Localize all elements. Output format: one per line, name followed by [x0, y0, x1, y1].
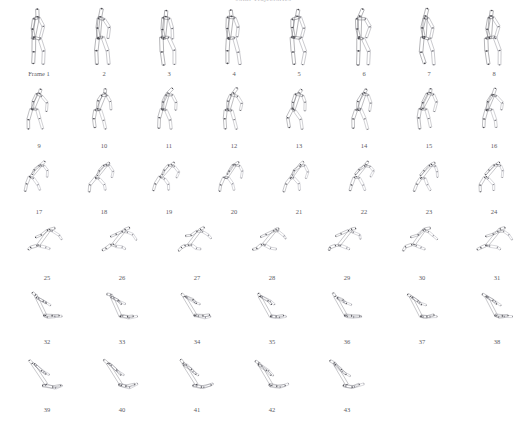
- frame-2[interactable]: 2: [71, 2, 137, 82]
- frame-38[interactable]: 38: [464, 288, 527, 346]
- skeleton-figure-30: [389, 224, 455, 274]
- frame-label-15: 15: [396, 142, 462, 149]
- frame-13[interactable]: 13: [266, 84, 332, 150]
- skeleton-figure-28: [239, 224, 305, 274]
- frame-label-40: 40: [89, 406, 155, 413]
- skeleton-figure-40: [89, 356, 155, 406]
- frame-label-9: 9: [6, 142, 72, 149]
- frame-label-20: 20: [201, 208, 267, 215]
- frame-29[interactable]: 29: [314, 224, 380, 280]
- frame-1[interactable]: Frame 1: [6, 2, 72, 82]
- frame-19[interactable]: 19: [136, 158, 202, 216]
- frame-label-37: 37: [389, 338, 455, 345]
- skeleton-figure-39: [14, 356, 80, 406]
- skeleton-figure-24: [461, 158, 527, 208]
- frame-24[interactable]: 24: [461, 158, 527, 216]
- frame-20[interactable]: 20: [201, 158, 267, 216]
- frame-25[interactable]: 25: [14, 224, 80, 280]
- skeleton-figure-29: [314, 224, 380, 274]
- frame-label-27: 27: [164, 274, 230, 281]
- frame-41[interactable]: 41: [164, 356, 230, 416]
- skeleton-figure-42: [239, 356, 305, 406]
- frame-23[interactable]: 23: [396, 158, 462, 216]
- frame-row-1: 910111213141516: [0, 84, 527, 150]
- skeleton-figure-22: [331, 158, 397, 208]
- skeleton-figure-31: [464, 224, 527, 274]
- skeleton-figure-25: [14, 224, 80, 274]
- skeleton-figure-1: [6, 2, 72, 70]
- skeleton-figure-8: [461, 2, 527, 70]
- frame-label-4: 4: [201, 70, 267, 77]
- frame-8[interactable]: 8: [461, 2, 527, 82]
- frame-42[interactable]: 42: [239, 356, 305, 416]
- frame-label-41: 41: [164, 406, 230, 413]
- frame-4[interactable]: 4: [201, 2, 267, 82]
- skeleton-figure-33: [89, 288, 155, 338]
- frame-6[interactable]: 6: [331, 2, 397, 82]
- frame-label-42: 42: [239, 406, 305, 413]
- frame-label-14: 14: [331, 142, 397, 149]
- frame-17[interactable]: 17: [6, 158, 72, 216]
- frame-34[interactable]: 34: [164, 288, 230, 346]
- frame-21[interactable]: 21: [266, 158, 332, 216]
- frame-31[interactable]: 31: [464, 224, 527, 280]
- frame-label-6: 6: [331, 70, 397, 77]
- frame-label-28: 28: [239, 274, 305, 281]
- frame-row-4: 32333435363738: [0, 288, 527, 346]
- skeleton-figure-10: [71, 84, 137, 142]
- frame-label-36: 36: [314, 338, 380, 345]
- frame-3[interactable]: 3: [136, 2, 202, 82]
- skeleton-figure-7: [396, 2, 462, 70]
- frame-label-18: 18: [71, 208, 137, 215]
- frame-15[interactable]: 15: [396, 84, 462, 150]
- frame-12[interactable]: 12: [201, 84, 267, 150]
- frame-30[interactable]: 30: [389, 224, 455, 280]
- frame-7[interactable]: 7: [396, 2, 462, 82]
- frame-label-25: 25: [14, 274, 80, 281]
- frame-label-10: 10: [71, 142, 137, 149]
- skeleton-figure-19: [136, 158, 202, 208]
- skeleton-figure-23: [396, 158, 462, 208]
- skeleton-figure-13: [266, 84, 332, 142]
- frame-32[interactable]: 32: [14, 288, 80, 346]
- frame-16[interactable]: 16: [461, 84, 527, 150]
- skeleton-figure-38: [464, 288, 527, 338]
- frame-label-8: 8: [461, 70, 527, 77]
- frame-label-22: 22: [331, 208, 397, 215]
- frame-label-34: 34: [164, 338, 230, 345]
- frame-label-17: 17: [6, 208, 72, 215]
- frame-35[interactable]: 35: [239, 288, 305, 346]
- frame-label-5: 5: [266, 70, 332, 77]
- frame-label-3: 3: [136, 70, 202, 77]
- frame-label-33: 33: [89, 338, 155, 345]
- skeleton-figure-21: [266, 158, 332, 208]
- frame-label-30: 30: [389, 274, 455, 281]
- frame-5[interactable]: 5: [266, 2, 332, 82]
- frame-27[interactable]: 27: [164, 224, 230, 280]
- frame-18[interactable]: 18: [71, 158, 137, 216]
- frame-28[interactable]: 28: [239, 224, 305, 280]
- frame-26[interactable]: 26: [89, 224, 155, 280]
- frame-10[interactable]: 10: [71, 84, 137, 150]
- skeleton-figure-20: [201, 158, 267, 208]
- frame-33[interactable]: 33: [89, 288, 155, 346]
- frame-43[interactable]: 43: [314, 356, 380, 416]
- frame-label-24: 24: [461, 208, 527, 215]
- skeleton-figure-15: [396, 84, 462, 142]
- frame-row-5: 3940414243: [0, 356, 527, 416]
- frame-22[interactable]: 22: [331, 158, 397, 216]
- frame-9[interactable]: 9: [6, 84, 72, 150]
- frame-label-39: 39: [14, 406, 80, 413]
- frame-11[interactable]: 11: [136, 84, 202, 150]
- frame-40[interactable]: 40: [89, 356, 155, 416]
- frame-39[interactable]: 39: [14, 356, 80, 416]
- frame-label-1: Frame 1: [6, 70, 72, 77]
- frame-label-7: 7: [396, 70, 462, 77]
- frame-14[interactable]: 14: [331, 84, 397, 150]
- frame-37[interactable]: 37: [389, 288, 455, 346]
- skeleton-figure-12: [201, 84, 267, 142]
- skeleton-figure-3: [136, 2, 202, 70]
- frame-36[interactable]: 36: [314, 288, 380, 346]
- frame-label-11: 11: [136, 142, 202, 149]
- skeleton-figure-43: [314, 356, 380, 406]
